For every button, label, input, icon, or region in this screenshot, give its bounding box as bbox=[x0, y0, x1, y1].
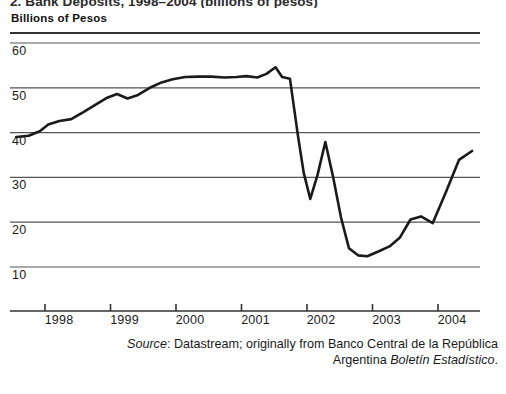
source-line-2-suffix: . bbox=[495, 353, 499, 367]
x-axis-label-2003: 2003 bbox=[364, 313, 410, 327]
x-axis-label-2001: 2001 bbox=[233, 313, 279, 327]
source-publication: Boletín Estadístico bbox=[390, 353, 494, 367]
source-label: Source bbox=[127, 337, 167, 351]
y-axis-label-20: 20 bbox=[12, 223, 26, 237]
y-axis-label-50: 50 bbox=[12, 89, 26, 103]
source-line-2: Argentina Boletín Estadístico. bbox=[60, 352, 498, 368]
y-axis-label-60: 60 bbox=[12, 44, 26, 58]
x-axis-label-1999: 1999 bbox=[102, 313, 148, 327]
x-axis-ticks-group bbox=[45, 304, 438, 311]
x-axis-label-2004: 2004 bbox=[429, 313, 475, 327]
line-chart-plot bbox=[0, 0, 506, 336]
source-line-1: Source: Datastream; originally from Banc… bbox=[60, 336, 498, 352]
source-line-1-text: : Datastream; originally from Banco Cent… bbox=[167, 337, 498, 351]
source-note: Source: Datastream; originally from Banc… bbox=[60, 336, 498, 368]
source-line-2-prefix: Argentina bbox=[333, 353, 390, 367]
y-axis-label-30: 30 bbox=[12, 178, 26, 192]
y-axis-label-40: 40 bbox=[12, 134, 26, 148]
x-axis-label-1998: 1998 bbox=[36, 313, 82, 327]
y-axis-label-10: 10 bbox=[12, 268, 26, 282]
x-axis-label-2000: 2000 bbox=[167, 313, 213, 327]
figure-container: 2. Bank Deposits, 1998–2004 (billions of… bbox=[0, 0, 506, 394]
data-series-line bbox=[16, 67, 472, 256]
x-axis-label-2002: 2002 bbox=[298, 313, 344, 327]
